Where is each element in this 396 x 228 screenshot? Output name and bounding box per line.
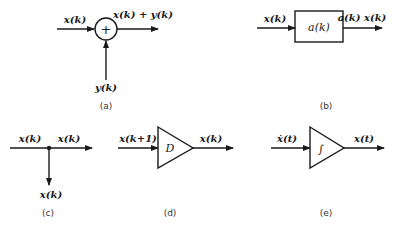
panel-e-integrator: ∫ ẋ(t) x(t) (e) [271,127,384,218]
panel-b-gain-block: a(k) x(k) a(k) x(k) (b) [257,11,387,111]
delay-triangle [158,127,193,168]
label-sum-output: x(k) + y(k) [112,9,173,20]
label-gain-output: a(k) x(k) [338,12,387,23]
label-x-k: x(k) [263,13,287,24]
panel-c-branch-point: x(k) x(k) x(k) (c) [10,133,92,218]
integrator-triangle [310,127,344,168]
label-output: x(t) [353,133,374,144]
caption-e: (e) [320,208,333,218]
block-diagram-elements: + x(k) x(k) + y(k) y(k) (a) a(k) x(k) a(… [0,0,396,228]
label-output-right: x(k) [57,133,81,144]
plus-symbol: + [101,22,112,37]
label-y-k: y(k) [94,82,117,93]
label-input: x(k+1) [118,133,157,144]
label-input: x(k) [18,133,42,144]
caption-a: (a) [100,101,113,111]
gain-symbol: a(k) [308,21,330,34]
label-x-k: x(k) [63,14,87,25]
caption-d: (d) [164,208,177,218]
label-input: ẋ(t) [276,133,297,144]
integral-symbol: ∫ [318,143,324,156]
panel-d-delay: D x(k+1) x(k) (d) [118,127,233,218]
panel-a-summing-junction: + x(k) x(k) + y(k) y(k) (a) [57,9,173,111]
caption-b: (b) [320,101,333,111]
delay-symbol: D [165,142,175,155]
caption-c: (c) [42,208,54,218]
label-output-down: x(k) [39,189,63,200]
label-output: x(k) [199,133,223,144]
